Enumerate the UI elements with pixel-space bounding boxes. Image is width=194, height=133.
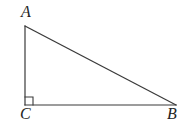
edge-AB-hypotenuse (25, 26, 176, 105)
right-angle-marker-icon (25, 97, 33, 105)
vertex-label-c: C (20, 106, 31, 122)
vertex-label-a: A (21, 4, 31, 20)
vertex-label-b: B (167, 106, 177, 122)
geometry-figure: A C B (0, 0, 194, 133)
